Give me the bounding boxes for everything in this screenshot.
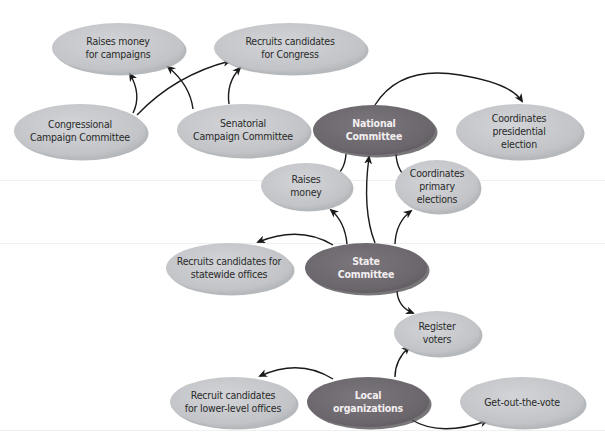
node-recruits-candidates-congress: [214, 23, 369, 76]
arrow-congressional-campaign-committee-to-raises-money-campaigns: [130, 74, 137, 113]
node-get-out-the-vote: [460, 377, 587, 430]
node-raises-money-campaigns: [52, 23, 187, 76]
arrow-state-committee-to-register-voters: [397, 291, 413, 313]
diagram-canvas: [0, 0, 605, 448]
node-national-committee: [313, 105, 438, 158]
node-recruit-candidates-lower-level: [170, 377, 299, 430]
node-state-committee: [305, 243, 430, 296]
party-organization-diagram: Raises moneyfor campaignsRecruits candid…: [0, 0, 605, 448]
arrow-local-organizations-to-recruit-candidates-lower-level: [260, 368, 333, 379]
arrow-national-committee-to-coordinates-presidential-election: [375, 73, 522, 105]
node-ellipse: [394, 311, 480, 355]
arrow-local-organizations-to-get-out-the-vote: [412, 420, 487, 429]
arrow-state-committee-to-recruits-candidates-statewide: [258, 234, 333, 245]
node-ellipse: [52, 23, 184, 73]
node-coordinates-presidential-election: [456, 104, 585, 161]
node-ellipse: [395, 160, 479, 212]
node-ellipse: [214, 23, 366, 73]
node-senatorial-campaign-committee: [177, 104, 312, 159]
arrow-local-organizations-to-register-voters: [395, 347, 409, 377]
arrow-state-committee-to-raises-money: [331, 210, 347, 244]
node-ellipse: [261, 163, 351, 209]
arrow-state-committee-to-coordinates-primary-elections: [395, 211, 411, 244]
arrow-state-committee-to-national-committee: [367, 157, 375, 243]
node-ellipse: [177, 104, 309, 156]
node-local-organizations: [307, 377, 432, 430]
node-ellipse: [307, 377, 429, 427]
node-ellipse: [166, 243, 292, 293]
node-ellipse: [14, 104, 146, 158]
node-ellipse: [460, 377, 584, 427]
node-recruits-candidates-statewide: [166, 243, 295, 296]
arrow-senatorial-campaign-committee-to-raises-money-campaigns: [168, 67, 193, 109]
node-ellipse: [170, 377, 296, 427]
node-congressional-campaign-committee: [14, 104, 149, 161]
node-raises-money: [261, 163, 354, 212]
node-register-voters: [394, 311, 483, 358]
node-ellipse: [313, 105, 435, 155]
arrow-senatorial-campaign-committee-to-recruits-candidates-congress: [228, 68, 240, 104]
node-ellipse: [456, 104, 582, 158]
node-ellipse: [305, 243, 427, 293]
node-coordinates-primary-elections: [395, 160, 482, 215]
